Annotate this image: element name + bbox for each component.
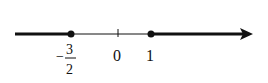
label-denominator: 2	[66, 62, 73, 77]
closed-dot-one	[148, 31, 155, 38]
label-neg-sign: −	[56, 49, 64, 64]
label-zero: 0	[113, 47, 121, 64]
label-one: 1	[146, 47, 154, 64]
label-numerator: 3	[66, 42, 73, 57]
closed-dot-neg-three-halves	[68, 31, 75, 38]
number-line-diagram: − 3 2 0 1	[0, 0, 268, 83]
